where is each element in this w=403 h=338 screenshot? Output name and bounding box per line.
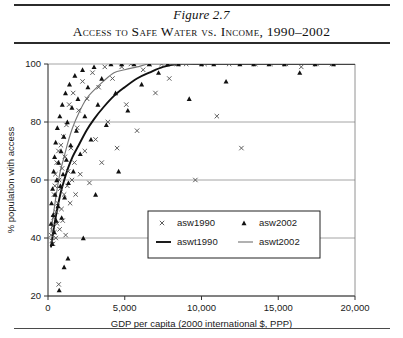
legend-label: aswt1990 <box>177 236 218 247</box>
y-tick-label: 80 <box>30 116 41 127</box>
x-tick-label: 0 <box>45 302 50 313</box>
figure-number: Figure 2.7 <box>0 7 403 23</box>
title-rule-top <box>14 4 390 6</box>
x-tick-label: 20,000 <box>340 302 369 313</box>
y-axis-ticks: 20406080100 <box>25 58 48 301</box>
y-tick-label: 20 <box>30 290 41 301</box>
figure-rule-bottom <box>14 328 390 329</box>
gridlines <box>48 64 355 296</box>
chart-legend: asw1990asw2002aswt1990aswt2002 <box>148 211 320 258</box>
scatter-chart: 05,00010,00015,00020,000 20406080100 asw… <box>0 44 403 328</box>
legend-label: asw2002 <box>259 217 297 228</box>
x-tick-label: 5,000 <box>113 302 137 313</box>
y-tick-label: 100 <box>25 58 41 69</box>
legend-label: aswt2002 <box>259 236 300 247</box>
y-tick-label: 60 <box>30 174 41 185</box>
y-tick-label: 40 <box>30 232 41 243</box>
x-tick-label: 10,000 <box>187 302 216 313</box>
figure-2-7: Figure 2.7 Access to Safe Water vs. Inco… <box>0 0 403 338</box>
x-tick-label: 15,000 <box>264 302 293 313</box>
figure-title: Access to Safe Water vs. Income, 1990–20… <box>0 24 403 40</box>
x-axis-ticks: 05,00010,00015,00020,000 <box>45 296 369 313</box>
y-axis-title: % population with access <box>5 126 16 233</box>
legend-label: asw1990 <box>177 217 215 228</box>
x-axis-title: GDP per capita (2000 international $, PP… <box>111 318 292 328</box>
